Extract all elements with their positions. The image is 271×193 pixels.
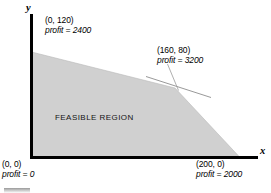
feasible-region-figure: y x (0, 120) profit = 2400 (160, 80) pro… <box>0 0 271 193</box>
x-axis-label: x <box>260 145 265 156</box>
vertex-profit-text: profit = 3200 <box>157 56 203 66</box>
vertex-label-right: (200, 0) profit = 2000 <box>196 160 242 179</box>
y-axis-label: y <box>26 2 31 13</box>
vertex-label-origin: (0, 0) profit = 0 <box>2 160 34 179</box>
vertex-profit-text: profit = 2400 <box>45 26 91 36</box>
vertex-label-top: (0, 120) profit = 2400 <box>45 16 91 35</box>
cropped-caption-fragment <box>4 188 30 193</box>
feasible-region-polygon <box>32 52 241 158</box>
feasible-region-label: FEASIBLE REGION <box>55 113 134 122</box>
vertex-label-corner: (160, 80) profit = 3200 <box>157 46 203 65</box>
vertex-profit-text: profit = 0 <box>2 170 34 180</box>
vertex-profit-text: profit = 2000 <box>196 170 242 180</box>
